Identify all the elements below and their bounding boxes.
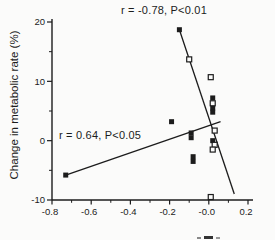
filled-square-data-point xyxy=(189,130,194,135)
x-tick-label: -0.8 xyxy=(42,206,58,217)
filled-square-data-point xyxy=(191,159,196,164)
clipped-x-axis-label-fragment xyxy=(204,236,213,239)
shallow-positive-regression-line xyxy=(66,122,221,175)
open-square-data-point xyxy=(187,57,192,62)
filled-square-data-point xyxy=(210,95,215,100)
clipped-x-axis-label-fragment xyxy=(197,237,201,239)
open-square-data-point xyxy=(212,128,217,133)
x-tick-label: -0.2 xyxy=(159,206,175,217)
clipped-x-axis-label-fragment xyxy=(216,237,220,239)
open-square-data-point xyxy=(210,147,215,152)
filled-square-data-point xyxy=(177,27,182,32)
y-tick-label: -10 xyxy=(31,194,45,205)
open-square-data-point xyxy=(210,101,215,106)
filled-square-data-point xyxy=(189,135,194,140)
filled-square-data-point xyxy=(191,154,196,159)
plot-area: 20100-10-0.8-0.6-0.4-0.2-0.00.2 xyxy=(0,0,275,240)
x-tick-label: -0.4 xyxy=(120,206,136,217)
filled-square-data-point xyxy=(63,173,68,178)
scatter-figure: r = -0.78, P<0.01 r = 0.64, P<0.05 Chang… xyxy=(0,0,275,240)
open-square-data-point xyxy=(208,195,213,200)
x-tick-label: -0.0 xyxy=(199,206,215,217)
y-tick-label: 10 xyxy=(34,76,45,87)
open-square-data-point xyxy=(208,75,213,80)
filled-square-data-point xyxy=(169,119,174,124)
y-tick-label: 20 xyxy=(34,16,45,27)
y-tick-label: 0 xyxy=(40,135,45,146)
steep-negative-regression-line xyxy=(179,30,234,194)
x-tick-label: -0.6 xyxy=(81,206,97,217)
filled-square-data-point xyxy=(210,110,215,115)
x-tick-label: 0.2 xyxy=(239,206,252,217)
